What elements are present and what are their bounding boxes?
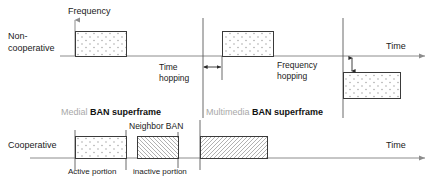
row-label-non-cooperative: Non- cooperative: [8, 31, 55, 54]
block-co-multimedia: [201, 137, 268, 159]
frequency-hopping-label-line1: Frequency: [277, 60, 317, 71]
time-hopping-label-line1: Time: [159, 62, 189, 73]
superframe-label-medial: Medial BAN superframe: [61, 107, 161, 118]
frequency-hopping-label: Frequency hopping: [277, 60, 317, 82]
superframe-label-multimedia-suffix: BAN superframe: [252, 107, 323, 117]
time-hopping-label: Time hopping: [159, 62, 189, 84]
block-nc-1: [76, 32, 127, 57]
superframe-label-medial-prefix: Medial: [61, 107, 88, 117]
block-co-neighbor: [138, 137, 179, 159]
row-label-non-cooperative-line1: Non-: [8, 31, 55, 43]
superframe-label-medial-suffix: BAN superframe: [90, 107, 161, 117]
superframe-label-multimedia: Multimedia BAN superframe: [206, 107, 323, 118]
frequency-hopping-label-line2: hopping: [277, 71, 317, 82]
block-nc-3: [344, 73, 401, 99]
diagram-vector-layer: [0, 0, 435, 185]
time-axis-label-top: Time: [386, 41, 406, 52]
frequency-axis-label: Frequency: [68, 6, 111, 17]
block-nc-2: [223, 32, 274, 57]
superframe-label-multimedia-prefix: Multimedia: [206, 107, 250, 117]
block-co-active: [76, 137, 127, 159]
time-axis-label-bottom: Time: [386, 140, 406, 151]
diagram-canvas: Non- cooperative Cooperative Frequency T…: [0, 0, 435, 185]
row-label-non-cooperative-line2: cooperative: [8, 43, 55, 55]
active-portion-label: Active portion: [68, 166, 116, 177]
neighbor-ban-label: Neighbor BAN: [129, 121, 183, 132]
inactive-portion-label: inactive portion: [133, 166, 187, 177]
time-hopping-label-line2: hopping: [159, 73, 189, 84]
row-label-cooperative: Cooperative: [8, 140, 57, 152]
